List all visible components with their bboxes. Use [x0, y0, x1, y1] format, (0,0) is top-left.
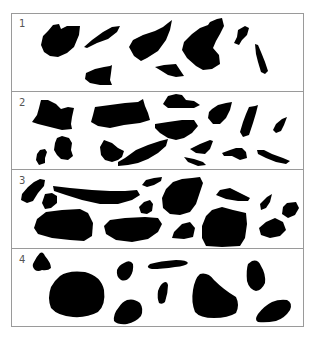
particle-shape: [234, 26, 249, 45]
particle-shape: [42, 193, 57, 209]
panel-3: 3: [19, 175, 299, 247]
panel-label-3: 3: [19, 175, 25, 186]
particle-shape: [84, 26, 120, 48]
panel-4: 4: [19, 252, 291, 324]
particle-shape: [222, 148, 247, 160]
particle-shape: [247, 261, 265, 291]
particle-shape: [100, 140, 124, 162]
panel-1: 1: [19, 18, 268, 85]
particle-shape: [148, 260, 188, 269]
particle-shape: [118, 139, 168, 166]
particle-shape: [36, 149, 47, 165]
particle-shape: [172, 222, 195, 239]
panel-label-2: 2: [19, 97, 25, 108]
particle-shape: [202, 207, 247, 247]
particle-shape: [158, 282, 168, 304]
particle-shape: [54, 136, 73, 160]
particle-shape: [33, 252, 51, 271]
particle-shape: [208, 102, 232, 124]
particle-shape: [282, 202, 299, 218]
particle-shape: [155, 120, 198, 140]
particle-shape: [260, 194, 272, 210]
particle-shape: [273, 117, 287, 133]
particle-shape: [114, 299, 142, 324]
particle-shape: [41, 24, 80, 57]
panel-label-1: 1: [19, 18, 25, 29]
particle-shape: [190, 140, 213, 154]
particle-shape: [91, 99, 150, 128]
particle-shape: [163, 94, 200, 108]
particle-shape: [240, 105, 258, 137]
particle-shape: [184, 157, 206, 166]
particle-shape-figure: 1 2 3: [0, 0, 316, 339]
particle-shape: [139, 200, 153, 214]
particle-shape: [49, 272, 104, 318]
particle-shape: [34, 209, 93, 241]
panel-2: 2: [19, 94, 290, 166]
particle-shape: [259, 218, 286, 238]
particle-shape: [142, 177, 162, 187]
particle-shape: [117, 261, 133, 280]
panel-label-4: 4: [19, 254, 25, 265]
particle-shape: [32, 100, 74, 130]
particle-shape: [256, 300, 291, 323]
particle-shape: [216, 188, 250, 201]
particle-shape: [257, 150, 290, 164]
particle-shape: [129, 20, 172, 61]
particle-shape: [53, 186, 140, 204]
particle-shape: [192, 274, 238, 318]
particle-shape: [104, 217, 162, 242]
particle-shape: [162, 177, 203, 215]
particle-shape: [155, 64, 184, 77]
particle-shape: [255, 44, 268, 74]
particle-shape: [85, 65, 112, 85]
particle-shape: [182, 18, 224, 70]
